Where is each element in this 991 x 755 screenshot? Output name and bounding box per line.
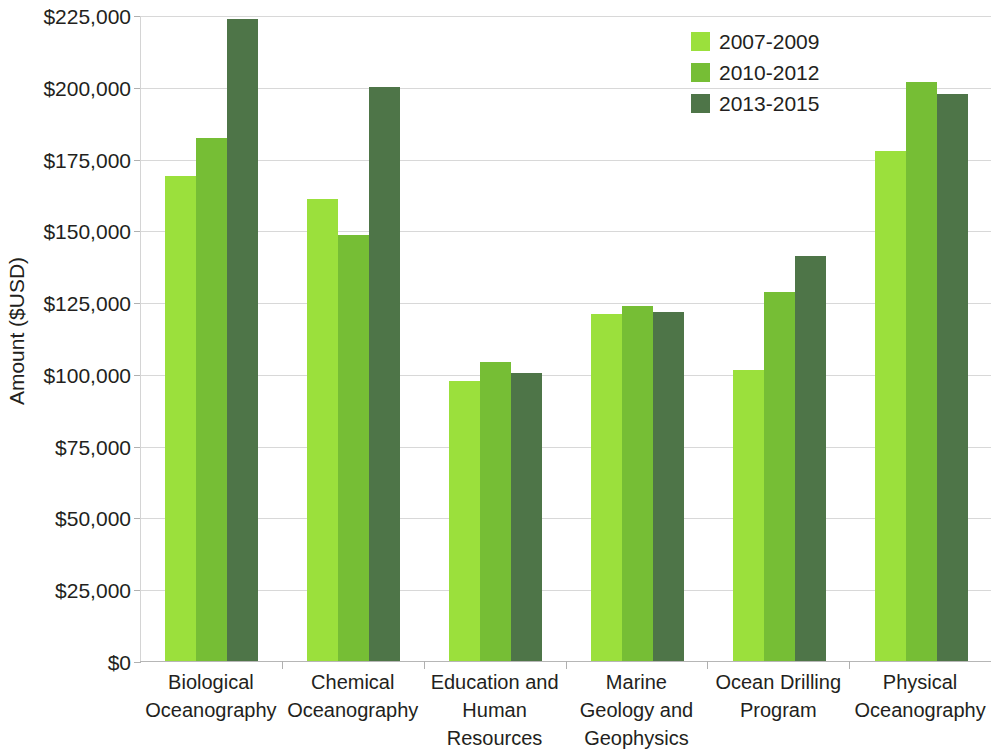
- bar[interactable]: [937, 94, 968, 661]
- chart-legend: 2007-20092010-20122013-2015: [691, 26, 891, 119]
- legend-entry[interactable]: 2007-2009: [691, 26, 891, 57]
- bar[interactable]: [764, 292, 795, 661]
- bar[interactable]: [591, 314, 622, 661]
- x-axis-category-label: MarineGeology andGeophysics: [566, 668, 708, 752]
- y-axis-tick-label: $0: [108, 652, 131, 673]
- category-label-line: Geology and: [566, 696, 708, 724]
- x-axis-category-label: Education andHumanResources: [424, 668, 566, 752]
- bar-group: [449, 0, 542, 661]
- bar-group: [307, 0, 400, 661]
- category-label-line: Marine: [566, 668, 708, 696]
- bar-group: [165, 0, 258, 661]
- x-axis-category-label: BiologicalOceanography: [140, 668, 282, 724]
- bar[interactable]: [622, 306, 653, 661]
- y-axis-tick-labels: $225,000$200,000$175,000$150,000$125,000…: [34, 0, 140, 680]
- x-axis-category-label: Ocean DrillingProgram: [707, 668, 849, 724]
- category-label-line: Chemical: [282, 668, 424, 696]
- y-axis-title: Amount ($USD): [0, 0, 34, 662]
- bar[interactable]: [511, 373, 542, 661]
- legend-swatch-icon: [691, 94, 710, 113]
- y-axis-tick-label: $150,000: [43, 221, 131, 242]
- legend-entry[interactable]: 2010-2012: [691, 57, 891, 88]
- bar[interactable]: [227, 19, 258, 661]
- category-label-line: Program: [707, 696, 849, 724]
- x-axis-category-labels: BiologicalOceanographyChemicalOceanograp…: [140, 668, 991, 755]
- category-label-line: Oceanography: [282, 696, 424, 724]
- bar[interactable]: [338, 235, 369, 661]
- category-label-line: Oceanography: [140, 696, 282, 724]
- y-axis-tick-label: $100,000: [43, 364, 131, 385]
- category-label-line: Resources: [424, 724, 566, 752]
- category-label-line: Ocean Drilling: [707, 668, 849, 696]
- x-axis-category-label: ChemicalOceanography: [282, 668, 424, 724]
- bar-group: [591, 0, 684, 661]
- category-label-line: Human: [424, 696, 566, 724]
- bar[interactable]: [653, 312, 684, 661]
- category-label-line: Education and: [424, 668, 566, 696]
- y-axis-title-text: Amount ($USD): [5, 257, 29, 405]
- category-label-line: Physical: [849, 668, 991, 696]
- category-label-line: Oceanography: [849, 696, 991, 724]
- legend-swatch-icon: [691, 32, 710, 51]
- category-label-line: Geophysics: [566, 724, 708, 752]
- x-axis-category-label: PhysicalOceanography: [849, 668, 991, 724]
- y-axis-tick-label: $175,000: [43, 149, 131, 170]
- chart-container: Amount ($USD) $225,000$200,000$175,000$1…: [0, 0, 991, 755]
- y-axis-tick-mark: [134, 662, 141, 663]
- legend-label: 2010-2012: [719, 61, 819, 85]
- bar[interactable]: [196, 138, 227, 661]
- bar[interactable]: [480, 362, 511, 661]
- bar[interactable]: [307, 199, 338, 661]
- bar[interactable]: [795, 256, 826, 661]
- y-axis-tick-label: $50,000: [55, 508, 131, 529]
- y-axis-tick-label: $75,000: [55, 436, 131, 457]
- y-axis-tick-label: $125,000: [43, 293, 131, 314]
- bar[interactable]: [165, 176, 196, 661]
- y-axis-tick-label: $225,000: [43, 6, 131, 27]
- bar[interactable]: [369, 87, 400, 661]
- category-label-line: Biological: [140, 668, 282, 696]
- legend-label: 2013-2015: [719, 92, 819, 116]
- legend-entry[interactable]: 2013-2015: [691, 88, 891, 119]
- bar[interactable]: [875, 151, 906, 661]
- y-axis-tick-label: $25,000: [55, 580, 131, 601]
- legend-label: 2007-2009: [719, 30, 819, 54]
- bar[interactable]: [906, 82, 937, 661]
- bar[interactable]: [733, 370, 764, 661]
- bar[interactable]: [449, 381, 480, 661]
- legend-swatch-icon: [691, 63, 710, 82]
- y-axis-tick-label: $200,000: [43, 77, 131, 98]
